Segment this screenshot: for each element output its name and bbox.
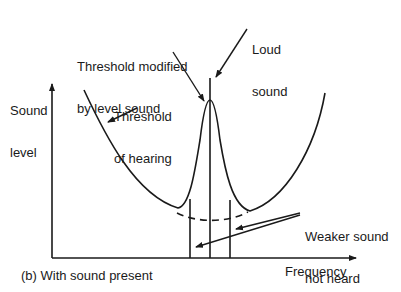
threshold-hearing-line1: Threshold (114, 110, 172, 124)
threshold-hearing-label: Threshold of hearing (114, 82, 172, 180)
y-axis-label: Sound level (10, 76, 48, 174)
x-axis-label: Frequency (285, 265, 346, 279)
loud-sound-line2: sound (252, 85, 287, 99)
weaker-arrow-left (196, 215, 300, 247)
diagram-caption: (b) With sound present (21, 269, 153, 283)
y-axis-label-line1: Sound (10, 104, 48, 118)
y-axis-label-line2: level (10, 146, 48, 160)
weaker-arrow-right (236, 213, 300, 229)
threshold-hearing-line2: of hearing (114, 152, 172, 166)
loud-sound-label: Loud sound (252, 15, 287, 113)
loud-sound-line1: Loud (252, 43, 287, 57)
loud-sound-arrow (216, 29, 247, 77)
weaker-sound-line1: Weaker sound (305, 230, 389, 244)
threshold-modified-line1: Threshold modified (77, 60, 188, 74)
original-threshold-dashed (177, 212, 248, 220)
